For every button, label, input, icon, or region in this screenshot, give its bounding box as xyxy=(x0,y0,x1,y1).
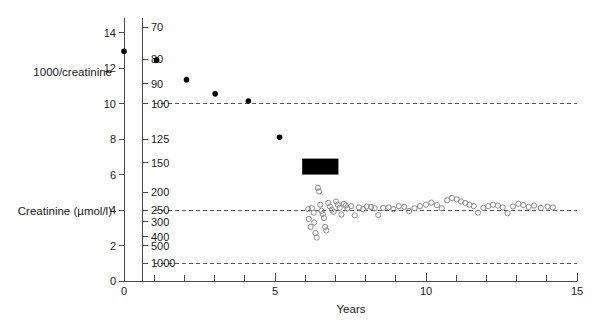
data-point-filled xyxy=(184,77,190,83)
data-point-filled xyxy=(154,57,160,63)
data-point-open xyxy=(318,202,323,207)
data-point-open xyxy=(391,207,396,212)
y-tick-label-right: 500 xyxy=(151,240,169,252)
axes-group xyxy=(124,18,577,281)
y-tick-label-right: 200 xyxy=(151,186,169,198)
series-pre-treatment xyxy=(121,48,282,140)
data-point-open xyxy=(311,210,316,215)
y-tick-label-left: 10 xyxy=(104,98,116,110)
x-tick-label: 0 xyxy=(121,285,127,297)
y-tick-label-left: 8 xyxy=(110,133,116,145)
data-point-open xyxy=(417,204,422,209)
data-point-open xyxy=(510,204,515,209)
data-point-open xyxy=(339,212,344,217)
data-point-open xyxy=(526,204,531,209)
y-tick-label-left: 14 xyxy=(104,27,116,39)
data-point-filled xyxy=(212,91,218,97)
y-tick-label-right: 300 xyxy=(151,216,169,228)
data-point-open xyxy=(500,205,505,210)
data-point-filled xyxy=(246,98,252,104)
data-point-open xyxy=(306,216,311,221)
scatter-plot-svg: 02468101214 7080901001251502002503004005… xyxy=(0,0,594,322)
data-point-open xyxy=(352,213,357,218)
data-point-open xyxy=(396,204,401,209)
data-point-open xyxy=(308,224,313,229)
data-point-open xyxy=(429,200,434,205)
data-point-open xyxy=(475,210,480,215)
y-tick-label-right: 70 xyxy=(151,21,163,33)
data-point-open xyxy=(532,203,537,208)
y-tick-label-right: 125 xyxy=(151,133,169,145)
series-post-treatment xyxy=(306,185,556,240)
y-tick-label-right: 100 xyxy=(151,98,169,110)
data-point-open xyxy=(402,204,407,209)
x-axis-label: Years xyxy=(337,303,366,315)
y-tick-label-right: 90 xyxy=(151,78,163,90)
chart-figure: 02468101214 7080901001251502002503004005… xyxy=(0,0,594,322)
data-point-open xyxy=(490,202,495,207)
data-point-open xyxy=(406,208,411,213)
data-point-open xyxy=(550,205,555,210)
x-tick-label: 5 xyxy=(272,285,278,297)
data-point-open xyxy=(306,207,311,212)
y-tick-label-left: 0 xyxy=(110,275,116,287)
y-axis-label-secondary: Creatinine (µmol/l) xyxy=(18,205,112,217)
data-points-group xyxy=(121,48,555,240)
y-tick-label-right: 150 xyxy=(151,157,169,169)
x-tick-label: 15 xyxy=(571,285,583,297)
y-tick-label-right: 1000 xyxy=(151,257,175,269)
treatment-period-bar xyxy=(302,159,338,175)
data-point-open xyxy=(521,202,526,207)
y-tick-label-right: 250 xyxy=(151,204,169,216)
reference-lines-group xyxy=(154,104,577,264)
data-point-open xyxy=(381,205,386,210)
data-point-open xyxy=(423,202,428,207)
y-tick-label-left: 6 xyxy=(110,169,116,181)
data-point-filled xyxy=(277,135,283,141)
data-point-filled xyxy=(121,48,127,54)
data-point-open xyxy=(545,204,550,209)
x-tick-label: 10 xyxy=(420,285,432,297)
data-point-open xyxy=(505,211,510,216)
y-axis-label-primary: 1000/creatinine xyxy=(33,66,112,78)
treatment-bar-group xyxy=(302,159,338,175)
x-ticks-group: 051015 xyxy=(121,273,583,297)
data-point-open xyxy=(312,220,317,225)
data-point-open xyxy=(376,212,381,217)
data-point-open xyxy=(434,202,439,207)
y-tick-label-left: 2 xyxy=(110,240,116,252)
